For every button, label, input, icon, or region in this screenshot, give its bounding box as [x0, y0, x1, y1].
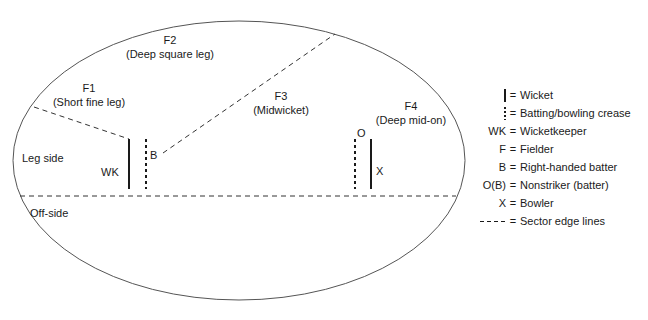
legend-description: Batting/bowling crease: [520, 107, 631, 119]
leg-side-label: Leg side: [22, 152, 64, 165]
legend-description: Right-handed batter: [520, 161, 617, 173]
fielder-f2-label: F2 (Deep square leg): [126, 33, 214, 61]
legend-equals: =: [506, 143, 520, 155]
legend-row: = Sector edge lines: [470, 212, 648, 230]
legend-symbol-b: B: [470, 158, 506, 176]
fielder-f4-code: F4: [376, 99, 446, 113]
cricket-field-diagram: Leg side Off-side WK B O X F1 (Short fin…: [0, 0, 648, 320]
legend-equals: =: [506, 89, 520, 101]
legend-description: Bowler: [520, 197, 554, 209]
wicketkeeper-marker-label: WK: [101, 166, 119, 179]
legend-description: Sector edge lines: [520, 215, 605, 227]
legend-equals: =: [506, 215, 520, 227]
legend-symbol-f: F: [470, 140, 506, 158]
legend-description: Nonstriker (batter): [520, 179, 609, 191]
legend-description: Wicketkeeper: [520, 125, 587, 137]
legend-equals: =: [506, 179, 520, 191]
fielder-f2-code: F2: [126, 33, 214, 47]
off-side-label: Off-side: [30, 207, 68, 220]
batter-marker-label: B: [150, 149, 157, 162]
legend: = Wicket = Batting/bowling crease WK = W…: [470, 86, 648, 230]
sector-edge-line-f1: [34, 107, 129, 139]
legend-symbol-ob: O(B): [470, 176, 506, 194]
legend-row: = Batting/bowling crease: [470, 104, 648, 122]
legend-description: Wicket: [520, 89, 553, 101]
legend-row: F = Fielder: [470, 140, 648, 158]
legend-row: B = Right-handed batter: [470, 158, 648, 176]
legend-description: Fielder: [520, 143, 554, 155]
fielder-f1-code: F1: [53, 81, 125, 95]
fielder-f3-code: F3: [253, 89, 309, 103]
legend-equals: =: [506, 125, 520, 137]
wicket-icon: [470, 86, 506, 104]
legend-equals: =: [506, 107, 520, 119]
legend-symbol-wk: WK: [470, 122, 506, 140]
legend-row: = Wicket: [470, 86, 648, 104]
dashed-line-icon: [470, 212, 506, 230]
legend-equals: =: [506, 197, 520, 209]
fielder-f4-position: (Deep mid-on): [376, 113, 446, 127]
fielder-f2-position: (Deep square leg): [126, 47, 214, 61]
legend-symbol-x: X: [470, 194, 506, 212]
fielder-f3-position: (Midwicket): [253, 103, 309, 117]
fielder-f1-position: (Short fine leg): [53, 95, 125, 109]
crease-icon: [470, 104, 506, 122]
nonstriker-marker-label: O: [357, 127, 366, 140]
fielder-f3-label: F3 (Midwicket): [253, 89, 309, 117]
fielder-f1-label: F1 (Short fine leg): [53, 81, 125, 109]
legend-row: O(B) = Nonstriker (batter): [470, 176, 648, 194]
legend-row: X = Bowler: [470, 194, 648, 212]
field-boundary-ellipse: [13, 21, 465, 300]
legend-equals: =: [506, 161, 520, 173]
legend-row: WK = Wicketkeeper: [470, 122, 648, 140]
bowler-marker-label: X: [376, 165, 383, 178]
fielder-f4-label: F4 (Deep mid-on): [376, 99, 446, 127]
